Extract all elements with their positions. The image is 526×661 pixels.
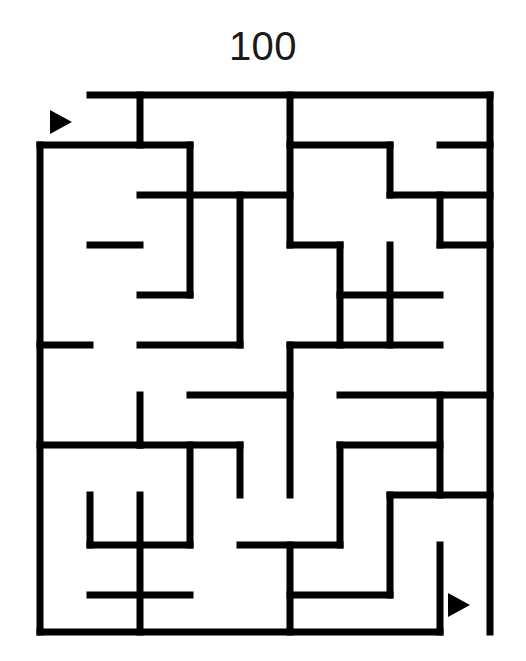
maze-wall-vertical [387, 492, 394, 599]
maze-wall-vertical [337, 442, 344, 549]
maze-wall-vertical [287, 542, 294, 636]
maze-wall-vertical [187, 142, 194, 299]
maze-page: 100 [0, 0, 526, 661]
exit-arrow-icon [448, 593, 470, 617]
maze-wall-horizontal [337, 442, 444, 449]
maze-wall-vertical [287, 342, 294, 499]
entrance-arrow-icon [50, 110, 72, 134]
maze-wall-vertical [487, 92, 494, 636]
maze-wall-horizontal [37, 442, 144, 449]
maze-wall-horizontal [137, 192, 294, 199]
maze-wall-group [37, 92, 494, 636]
maze-wall-horizontal [437, 142, 494, 149]
maze-wall-horizontal [137, 292, 194, 299]
maze-wall-vertical [437, 542, 444, 636]
maze-wall-horizontal [287, 342, 444, 349]
maze-wall-horizontal [187, 392, 294, 399]
maze-wall-vertical [87, 492, 94, 549]
maze-wall-vertical [437, 392, 444, 499]
maze-wall-horizontal [287, 242, 344, 249]
maze-wall-vertical [237, 192, 244, 349]
maze-wall-vertical [137, 492, 144, 636]
maze-wall-vertical [187, 442, 194, 549]
maze-wall-horizontal [87, 242, 144, 249]
maze-wall-horizontal [437, 242, 494, 249]
maze-wall-horizontal [287, 142, 394, 149]
maze-wall-horizontal [37, 629, 444, 636]
maze-wall-horizontal [287, 592, 394, 599]
maze-wall-vertical [137, 392, 144, 449]
maze-wall-vertical [287, 92, 294, 249]
maze-marker-group [50, 110, 470, 617]
maze-wall-vertical [237, 442, 244, 499]
maze-wall-vertical [137, 92, 144, 149]
maze-wall-vertical [437, 192, 444, 249]
maze-wall-vertical [387, 242, 394, 349]
maze-wall-horizontal [137, 342, 244, 349]
maze-wall-vertical [387, 142, 394, 199]
maze-wall-vertical [337, 242, 344, 349]
maze-figure [0, 0, 526, 661]
maze-wall-vertical [37, 142, 44, 636]
maze-wall-horizontal [37, 342, 94, 349]
maze-wall-horizontal [37, 142, 194, 149]
maze-wall-horizontal [337, 392, 494, 399]
